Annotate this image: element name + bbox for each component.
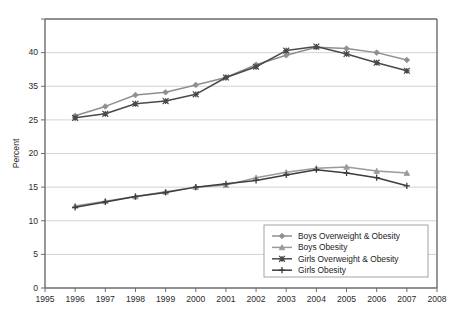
series-line xyxy=(75,167,407,206)
data-point-marker xyxy=(313,44,319,50)
data-point-marker xyxy=(163,98,169,104)
series-3 xyxy=(72,44,409,121)
data-point-marker xyxy=(102,199,108,205)
y-axis-title: Percent xyxy=(11,138,21,168)
data-point-marker xyxy=(103,104,109,110)
data-point-marker xyxy=(72,115,78,121)
y-tick-label: 20 xyxy=(28,148,38,158)
y-tick-label: 5 xyxy=(33,249,38,259)
data-point-marker xyxy=(133,101,139,107)
data-point-marker xyxy=(279,256,285,262)
legend-label: Boys Overweight & Obesity xyxy=(298,231,401,241)
x-tick-label: 1995 xyxy=(35,294,54,304)
x-tick-label: 2003 xyxy=(277,294,296,304)
data-point-marker xyxy=(102,111,108,117)
series-4 xyxy=(72,167,410,211)
data-point-marker xyxy=(404,183,410,189)
series-line xyxy=(75,47,407,118)
x-tick-label: 1997 xyxy=(96,294,115,304)
y-tick-label: 35 xyxy=(28,81,38,91)
chart-legend: Boys Overweight & ObesityBoys ObesityGir… xyxy=(264,225,428,277)
legend-label: Girls Obesity xyxy=(298,265,347,275)
y-tick-label: 15 xyxy=(28,182,38,192)
data-point-marker xyxy=(374,50,380,56)
x-tick-label: 2006 xyxy=(367,294,386,304)
data-point-marker xyxy=(163,90,169,96)
y-tick-label: 10 xyxy=(28,216,38,226)
legend-label: Boys Obesity xyxy=(298,242,348,252)
chart-container: 05101520253540Percent1995199619971998199… xyxy=(0,0,450,322)
data-point-marker xyxy=(193,91,199,97)
data-point-marker xyxy=(344,51,350,57)
y-tick-label: 0 xyxy=(33,283,38,293)
x-tick-label: 2000 xyxy=(186,294,205,304)
legend-label: Girls Overweight & Obesity xyxy=(298,254,399,264)
data-point-marker xyxy=(193,82,199,88)
series-2 xyxy=(72,164,409,208)
x-tick-label: 2002 xyxy=(247,294,266,304)
data-point-marker xyxy=(374,175,380,181)
data-point-marker xyxy=(404,57,410,63)
data-point-marker xyxy=(283,48,289,54)
data-point-marker xyxy=(253,64,259,70)
x-tick-label: 2008 xyxy=(427,294,446,304)
data-point-marker xyxy=(404,68,410,74)
y-tick-label: 40 xyxy=(28,47,38,57)
line-chart: 05101520253540Percent1995199619971998199… xyxy=(0,0,450,322)
series-line xyxy=(75,170,407,208)
x-tick-label: 2004 xyxy=(307,294,326,304)
x-tick-label: 2005 xyxy=(337,294,356,304)
y-tick-label: 25 xyxy=(28,115,38,125)
data-point-marker xyxy=(374,60,380,66)
data-point-marker xyxy=(223,75,229,81)
data-point-marker xyxy=(133,92,139,98)
x-tick-label: 2001 xyxy=(216,294,235,304)
x-tick-label: 1998 xyxy=(126,294,145,304)
data-point-marker xyxy=(344,46,350,52)
x-tick-label: 1996 xyxy=(66,294,85,304)
data-point-marker xyxy=(163,189,169,195)
x-tick-label: 1999 xyxy=(156,294,175,304)
x-tick-label: 2007 xyxy=(397,294,416,304)
data-point-marker xyxy=(343,170,349,176)
